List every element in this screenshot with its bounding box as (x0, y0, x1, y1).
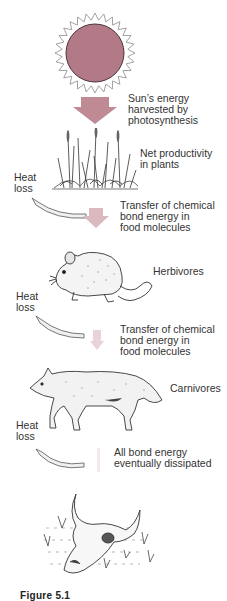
mouse-icon (48, 246, 156, 308)
transfer-label-dissipation: All bond energy eventually dissipated (114, 447, 211, 469)
figure-caption: Figure 5.1 (20, 590, 70, 601)
energy-transfer-arrow-1 (73, 97, 117, 124)
heat-loss-line: loss (16, 431, 38, 442)
cattle-skull-icon (40, 488, 160, 578)
heat-loss-label-3: Heat loss (16, 420, 38, 442)
carnivores-label: Carnivores (170, 383, 221, 394)
heat-loss-line: loss (16, 302, 38, 313)
coyote-icon (26, 360, 166, 434)
heat-loss-arrow-icon-2 (34, 314, 86, 342)
transfer-label-line: food molecules (120, 346, 215, 357)
heat-loss-label-1: Heat loss (14, 172, 36, 194)
grass-plants-icon (50, 128, 140, 190)
energy-transfer-arrow-3 (90, 330, 104, 350)
transfer-label-plants-to-herbivores: Transfer of chemical bond energy in food… (120, 200, 215, 233)
transfer-label-line: photosynthesis (128, 115, 198, 126)
transfer-label-sunlight: Sun’s energy harvested by photosynthesis (128, 93, 198, 126)
heat-loss-line: loss (14, 183, 36, 194)
heat-loss-arrow-icon-1 (30, 196, 90, 222)
sun-icon (52, 10, 138, 96)
transfer-label-herbivores-to-carnivores: Transfer of chemical bond energy in food… (120, 324, 215, 357)
transfer-label-line: eventually dissipated (114, 458, 211, 469)
transfer-label-line: food molecules (120, 222, 215, 233)
plants-label: Net productivity in plants (140, 148, 212, 170)
energy-transfer-arrow-2 (83, 208, 109, 228)
energy-transfer-arrow-4 (96, 448, 102, 472)
heat-loss-arrow-icon-3 (34, 447, 86, 473)
plants-label-line: in plants (140, 159, 212, 170)
herbivores-label: Herbivores (153, 266, 204, 277)
heat-loss-label-2: Heat loss (16, 291, 38, 313)
